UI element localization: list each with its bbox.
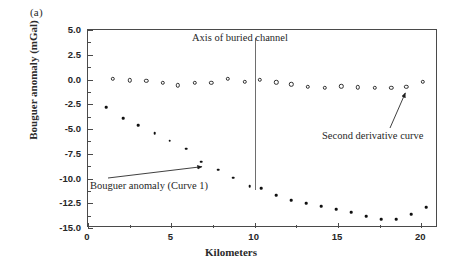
data-point-bouguer-anomaly [290, 199, 293, 202]
data-point-bouguer-anomaly [410, 213, 413, 216]
y-tick-label: -7.5 [37, 147, 81, 158]
data-point-second-derivative [242, 80, 246, 84]
data-point-second-derivative [389, 86, 393, 90]
plot-area [87, 29, 437, 227]
figure-panel: (a) Bouguer anomaly (mGal) Kilometers 5.… [0, 0, 462, 271]
y-tick-mark [88, 30, 93, 31]
data-point-bouguer-anomaly [168, 140, 171, 143]
y-minor-tick-mark [88, 92, 91, 93]
data-point-bouguer-anomaly [232, 176, 235, 179]
x-tick-mark [88, 223, 89, 228]
channel-axis-vertical-line [255, 38, 256, 190]
x-tick-mark [421, 223, 422, 228]
data-point-bouguer-anomaly [217, 168, 220, 171]
data-point-second-derivative [289, 82, 293, 86]
x-minor-tick-mark [130, 225, 131, 228]
data-point-second-derivative [257, 78, 261, 82]
data-point-second-derivative [322, 86, 326, 90]
x-tick-label: 0 [67, 231, 107, 242]
data-point-bouguer-anomaly [365, 215, 368, 218]
data-point-second-derivative [111, 77, 115, 81]
y-tick-mark [88, 80, 93, 81]
annotation-second-derivative: Second derivative curve [322, 130, 423, 141]
annotation-bouguer-anomaly: Bouguer anomaly (Curve 1) [90, 180, 208, 191]
y-minor-tick-mark [88, 166, 91, 167]
data-point-bouguer-anomaly [335, 208, 338, 211]
data-point-second-derivative [127, 78, 131, 82]
data-point-second-derivative [192, 81, 196, 85]
y-tick-mark [88, 154, 93, 155]
data-point-bouguer-anomaly [380, 218, 383, 221]
x-minor-tick-mark [213, 225, 214, 228]
y-tick-label: -5.0 [37, 123, 81, 134]
x-tick-mark [171, 223, 172, 228]
y-tick-mark [88, 104, 93, 105]
data-point-second-derivative [274, 80, 278, 84]
x-tick-mark [338, 223, 339, 228]
y-minor-tick-mark [88, 216, 91, 217]
data-point-bouguer-anomaly [260, 187, 263, 190]
data-point-second-derivative [209, 81, 213, 85]
y-tick-mark [88, 55, 93, 56]
x-tick-label: 10 [234, 231, 274, 242]
x-minor-tick-mark [296, 225, 297, 228]
data-point-second-derivative [404, 85, 408, 89]
y-tick-mark [88, 228, 93, 229]
x-minor-tick-mark [380, 225, 381, 228]
data-point-bouguer-anomaly [305, 202, 308, 205]
y-minor-tick-mark [88, 67, 91, 68]
x-axis-title: Kilometers [0, 246, 462, 258]
x-tick-mark [255, 223, 256, 228]
y-tick-label: 5.0 [37, 24, 81, 35]
data-point-second-derivative [372, 86, 376, 90]
data-point-second-derivative [356, 85, 360, 89]
data-point-second-derivative [144, 79, 148, 83]
data-point-bouguer-anomaly [248, 185, 251, 188]
data-point-second-derivative [306, 85, 310, 89]
data-point-bouguer-anomaly [395, 218, 398, 221]
data-point-bouguer-anomaly [320, 205, 323, 208]
x-tick-label: 5 [150, 231, 190, 242]
annotation-axis-of-buried-channel: Axis of buried channel [192, 32, 288, 43]
y-tick-label: 2.5 [37, 48, 81, 59]
y-minor-tick-mark [88, 141, 91, 142]
y-tick-label: 0.0 [37, 73, 81, 84]
y-tick-mark [88, 203, 93, 204]
data-point-second-derivative [226, 77, 230, 81]
data-point-second-derivative [161, 81, 165, 85]
data-point-bouguer-anomaly [122, 117, 125, 120]
data-point-bouguer-anomaly [105, 106, 108, 109]
y-minor-tick-mark [88, 191, 91, 192]
data-point-bouguer-anomaly [153, 132, 156, 135]
data-point-second-derivative [176, 83, 180, 87]
data-point-bouguer-anomaly [200, 160, 203, 163]
y-minor-tick-mark [88, 42, 91, 43]
y-tick-label: -2.5 [37, 98, 81, 109]
data-point-bouguer-anomaly [185, 148, 188, 151]
data-point-second-derivative [421, 80, 425, 84]
data-point-bouguer-anomaly [350, 211, 353, 214]
x-tick-label: 20 [400, 231, 440, 242]
y-minor-tick-mark [88, 117, 91, 118]
data-point-second-derivative [339, 84, 343, 88]
x-tick-label: 15 [317, 231, 357, 242]
y-tick-mark [88, 129, 93, 130]
data-point-bouguer-anomaly [137, 124, 140, 127]
data-point-bouguer-anomaly [275, 194, 278, 197]
y-tick-label: -12.5 [37, 197, 81, 208]
data-point-bouguer-anomaly [425, 206, 428, 209]
y-tick-label: -10.0 [37, 172, 81, 183]
